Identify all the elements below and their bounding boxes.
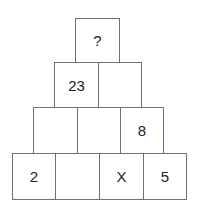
pyramid-cell-r4-c1: 2 (12, 153, 56, 200)
pyramid-cell-r3-c1 (33, 107, 78, 154)
pyramid-cell-r4-c2 (55, 153, 100, 200)
pyramid-cell-r2-c2 (98, 62, 142, 108)
pyramid-cell-r3-c2 (77, 107, 121, 154)
pyramid-cell-r3-c3: 8 (120, 107, 164, 154)
pyramid-cell-r1-c1: ? (75, 18, 120, 63)
pyramid-cell-r4-c4: 5 (143, 153, 187, 200)
pyramid-cell-r2-c1: 23 (54, 62, 99, 108)
pyramid-cell-r4-c3: X (99, 153, 144, 200)
